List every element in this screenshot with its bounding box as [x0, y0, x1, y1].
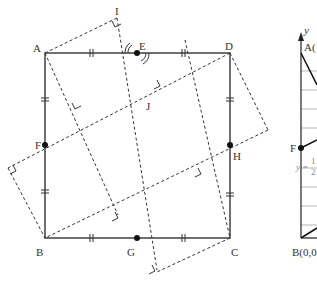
graph-label-a: A(	[304, 41, 316, 54]
label-a: A	[33, 42, 41, 54]
right-coordinate-graph: y A( F B(0,0 y = 1 2	[290, 24, 317, 259]
graph-label-b: B(0,0	[292, 246, 317, 259]
equation-numerator: 1	[311, 156, 316, 166]
label-g: G	[127, 246, 135, 258]
line-from-b	[301, 228, 317, 238]
label-d: D	[225, 40, 233, 52]
equation-denominator: 2	[311, 167, 316, 177]
label-h: H	[233, 150, 241, 162]
label-b: B	[36, 246, 43, 258]
point-g-dot	[134, 235, 140, 241]
label-i: I	[115, 5, 119, 17]
graph-label-f: F	[290, 142, 296, 154]
label-j: J	[146, 100, 151, 112]
label-f: F	[35, 139, 41, 151]
label-e: E	[139, 40, 146, 52]
label-c: C	[231, 246, 238, 258]
geometry-figure: A E D I J F H B G C y A( F B(0,0 y	[0, 0, 317, 285]
point-h-dot	[227, 142, 233, 148]
point-f-dot	[42, 142, 48, 148]
point-f-graph-dot	[298, 145, 304, 151]
equation-prefix: y =	[295, 162, 308, 172]
y-axis-label: y	[303, 24, 309, 36]
line-from-a	[301, 53, 317, 85]
